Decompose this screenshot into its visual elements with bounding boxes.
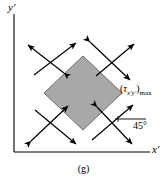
tau-subscript: x′y′ — [127, 89, 136, 97]
figure-caption: (g) — [0, 163, 167, 174]
max-subscript: max — [140, 89, 152, 97]
stress-element-figure: y′ x′ (τx′y′)max 45° (g) — [0, 0, 167, 181]
max-shear-stress-label: (τx′y′)max — [120, 84, 152, 97]
shear-arrow-ur-a — [96, 44, 134, 76]
shear-arrow-ul-b — [28, 45, 64, 73]
angle-label: 45° — [133, 120, 147, 131]
y-axis-label: y′ — [8, 1, 15, 13]
shear-arrow-lr-b — [97, 107, 132, 144]
x-axis-label: x′ — [152, 143, 159, 155]
